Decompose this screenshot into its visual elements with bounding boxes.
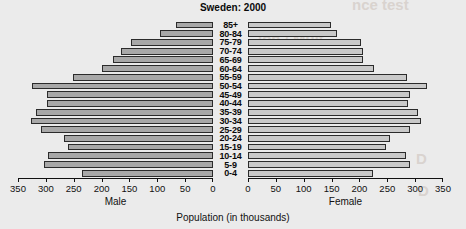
bar-female-25-29 [248, 126, 410, 133]
axis-tick-350 [442, 178, 443, 182]
bar-row [18, 65, 213, 74]
bar-female-15-19 [248, 144, 386, 151]
bar-row [248, 126, 443, 135]
bar-row [18, 169, 213, 178]
bar-male-40-44 [47, 100, 213, 107]
male-x-axis-tick-labels: 350300250200150100500 [18, 183, 213, 195]
bar-male-60-64 [102, 65, 213, 72]
bar-row [248, 117, 443, 126]
bar-row [18, 47, 213, 56]
axis-tick-label-0: 0 [245, 183, 250, 194]
axis-tick-label-50: 50 [180, 183, 191, 194]
bar-female-55-59 [248, 74, 407, 81]
axis-tick-150 [332, 178, 333, 182]
bar-male-65-69 [113, 56, 213, 63]
axis-tick-350 [18, 178, 19, 182]
axis-tick-label-200: 200 [94, 183, 110, 194]
axis-tick-100 [304, 178, 305, 182]
bar-row [248, 108, 443, 117]
male-bars-panel [18, 21, 213, 178]
bar-female-80-84 [248, 30, 337, 37]
bar-female-20-24 [248, 135, 390, 142]
bar-male-70-74 [121, 48, 213, 55]
bar-row [18, 161, 213, 170]
bar-row [18, 117, 213, 126]
axis-line [18, 178, 213, 179]
bar-row [248, 169, 443, 178]
male-axis-label: Male [18, 196, 213, 207]
axis-tick-300 [415, 178, 416, 182]
axis-tick-250 [74, 178, 75, 182]
bar-row [248, 91, 443, 100]
bar-row [18, 91, 213, 100]
bar-row [18, 126, 213, 135]
bar-row [248, 73, 443, 82]
bar-male-5-9 [44, 161, 213, 168]
axis-tick-200 [102, 178, 103, 182]
population-pyramid-chart: nce test ion / Mult D D Sweden: 2000 85+… [0, 0, 466, 229]
bar-male-35-39 [36, 109, 213, 116]
bar-female-40-44 [248, 100, 408, 107]
bar-row [248, 38, 443, 47]
bar-female-0-4 [248, 170, 373, 177]
axis-tick-label-350: 350 [10, 183, 26, 194]
bar-female-10-14 [248, 152, 406, 159]
bar-row [18, 108, 213, 117]
bar-row [18, 82, 213, 91]
bar-male-30-34 [31, 118, 213, 125]
bar-row [248, 161, 443, 170]
bar-female-65-69 [248, 56, 363, 63]
axis-line [248, 178, 443, 179]
axis-tick-label-250: 250 [379, 183, 395, 194]
bar-row [18, 73, 213, 82]
bar-row [18, 99, 213, 108]
bar-row [248, 82, 443, 91]
bar-row [18, 152, 213, 161]
axis-tick-100 [157, 178, 158, 182]
axis-tick-250 [387, 178, 388, 182]
bar-female-70-74 [248, 48, 363, 55]
bar-row [18, 21, 213, 30]
bar-row [248, 47, 443, 56]
bar-row [248, 152, 443, 161]
axis-tick-label-150: 150 [121, 183, 137, 194]
female-bars-panel [248, 21, 443, 178]
axis-tick-label-300: 300 [407, 183, 423, 194]
bar-female-35-39 [248, 109, 418, 116]
bar-row [18, 143, 213, 152]
bar-male-45-49 [47, 91, 213, 98]
bar-row [18, 30, 213, 39]
bar-row [18, 134, 213, 143]
bar-female-45-49 [248, 91, 410, 98]
bar-male-85+ [176, 22, 213, 29]
bar-male-20-24 [64, 135, 213, 142]
bar-male-0-4 [82, 170, 213, 177]
bar-female-5-9 [248, 161, 410, 168]
female-x-axis-tick-labels: 050100150200250300350 [248, 183, 443, 195]
axis-tick-label-250: 250 [66, 183, 82, 194]
x-axis-title: Population (in thousands) [0, 212, 466, 223]
axis-tick-label-200: 200 [351, 183, 367, 194]
axis-tick-150 [129, 178, 130, 182]
axis-tick-label-100: 100 [149, 183, 165, 194]
bar-male-55-59 [73, 74, 213, 81]
bar-female-60-64 [248, 65, 374, 72]
age-group-label-column: 85+80-8475-7970-7465-6960-6455-5950-5445… [213, 21, 248, 178]
bar-male-75-79 [131, 39, 213, 46]
axis-tick-label-100: 100 [296, 183, 312, 194]
bar-male-50-54 [32, 83, 213, 90]
axis-tick-50 [276, 178, 277, 182]
female-axis-label: Female [248, 196, 443, 207]
axis-tick-300 [46, 178, 47, 182]
bar-male-80-84 [160, 30, 213, 37]
axis-tick-label-350: 350 [435, 183, 451, 194]
bar-male-15-19 [68, 144, 213, 151]
bar-female-75-79 [248, 39, 361, 46]
axis-tick-200 [359, 178, 360, 182]
axis-tick-label-150: 150 [324, 183, 340, 194]
axis-tick-50 [185, 178, 186, 182]
axis-tick-label-0: 0 [210, 183, 215, 194]
axis-tick-label-300: 300 [38, 183, 54, 194]
age-group-label-0-4: 0-4 [213, 169, 248, 178]
bar-row [18, 56, 213, 65]
